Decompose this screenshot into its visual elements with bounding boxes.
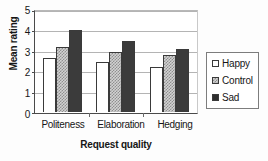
y-tick-label: 1	[14, 88, 30, 99]
x-tick-label-elaboration: Elaboration	[97, 119, 144, 130]
bar-elaboration-happy[interactable]	[96, 62, 109, 113]
legend-label-sad: Sad	[222, 92, 239, 103]
y-tickmark	[32, 113, 35, 114]
y-tickmark	[32, 72, 35, 73]
bar-group-elaboration	[96, 11, 135, 112]
y-tick-label: 5	[14, 5, 30, 16]
x-axis-tick-labels: Politeness Elaboration Hedging	[35, 119, 199, 130]
y-axis-tick-labels: 5 4 3 2 1 0	[14, 10, 30, 114]
chart-legend: Happy Control Sad	[206, 52, 259, 109]
legend-label-control: Control	[222, 75, 253, 86]
y-tickmark	[32, 52, 35, 53]
y-tick-label: 4	[14, 25, 30, 36]
y-tick-label: 0	[14, 109, 30, 120]
bar-chart-figure: Mean rating 5 4 3 2 1 0	[0, 0, 268, 161]
legend-item-control[interactable]: Control	[212, 75, 253, 86]
x-axis-title: Request quality	[34, 139, 198, 150]
bar-group-politeness	[43, 11, 82, 112]
legend-item-happy[interactable]: Happy	[212, 58, 253, 69]
y-tick-label: 3	[14, 46, 30, 57]
y-tick-label: 2	[14, 67, 30, 78]
y-tickmark	[32, 11, 35, 12]
bar-elaboration-sad[interactable]	[122, 41, 135, 112]
x-axis-separator	[89, 113, 90, 117]
bar-groups	[36, 11, 196, 112]
filled-square-icon	[212, 94, 219, 101]
bar-politeness-sad[interactable]	[69, 30, 82, 112]
x-tick-label-hedging: Hedging	[157, 119, 192, 130]
y-tickmark	[32, 31, 35, 32]
legend-label-happy: Happy	[222, 58, 250, 69]
open-square-icon	[212, 60, 219, 67]
x-tick-label-politeness: Politeness	[41, 119, 84, 130]
bar-hedging-sad[interactable]	[176, 49, 189, 112]
y-tickmark	[32, 93, 35, 94]
bar-hedging-control[interactable]	[163, 55, 176, 112]
bar-hedging-happy[interactable]	[150, 67, 163, 112]
bar-elaboration-control[interactable]	[109, 52, 122, 112]
x-axis-separator	[143, 113, 144, 117]
legend-item-sad[interactable]: Sad	[212, 92, 253, 103]
checkered-square-icon	[212, 77, 219, 84]
bar-politeness-happy[interactable]	[43, 58, 56, 112]
plot-area	[34, 10, 198, 114]
bar-politeness-control[interactable]	[56, 47, 69, 112]
bar-group-hedging	[150, 11, 189, 112]
